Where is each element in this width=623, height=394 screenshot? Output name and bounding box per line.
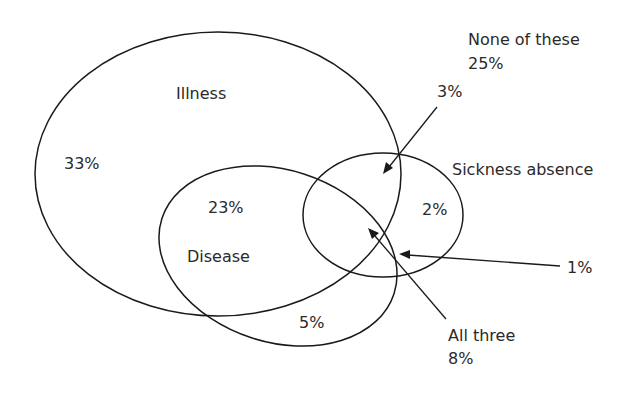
illness-only-pct: 33%: [64, 154, 100, 174]
arrow-all-three-head: [368, 228, 379, 239]
venn-diagram: [0, 0, 623, 394]
illness-label: Illness: [176, 84, 226, 104]
none-title: None of these: [468, 30, 580, 50]
none-pct: 25%: [468, 54, 504, 74]
arrow-1pct-head: [399, 250, 410, 259]
disease-sickness-pct: 1%: [567, 258, 592, 278]
illness-set-ellipse: [35, 32, 401, 316]
disease-only-pct: 5%: [299, 313, 324, 333]
illness-disease-pct: 23%: [208, 198, 244, 218]
sickness-only-pct: 2%: [422, 200, 447, 220]
all-three-title: All three: [448, 326, 515, 346]
disease-set-ellipse: [135, 137, 420, 376]
sickness-absence-label: Sickness absence: [452, 160, 593, 180]
illness-sickness-pct: 3%: [437, 82, 462, 102]
all-three-pct: 8%: [448, 349, 473, 369]
disease-label: Disease: [187, 247, 250, 267]
